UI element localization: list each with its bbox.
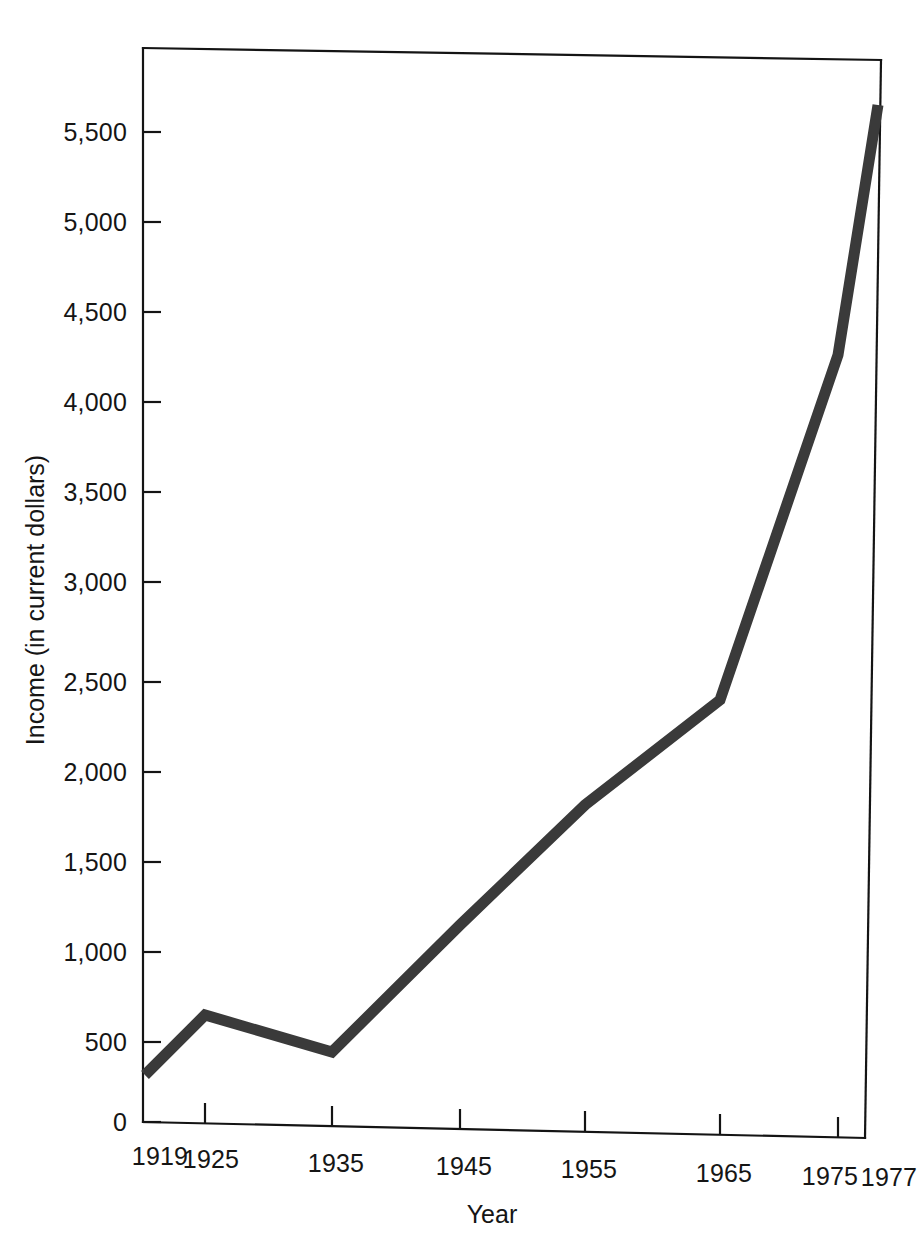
y-tick-label-4500: 4,500 xyxy=(63,298,127,326)
x-tick-label-1935: 1935 xyxy=(308,1149,364,1177)
x-tick-label-1977: 1977 xyxy=(861,1163,917,1191)
frame-top-border xyxy=(143,48,881,60)
x-tick-label-1955: 1955 xyxy=(561,1155,617,1183)
x-tick-label-1945: 1945 xyxy=(436,1152,492,1180)
y-tick-label-3500: 3,500 xyxy=(63,478,127,506)
x-axis-ticks xyxy=(205,1103,838,1137)
line-chart-svg: 0 500 1,000 1,500 2,000 2,500 3,000 3,50… xyxy=(0,0,920,1233)
chart-figure: 0 500 1,000 1,500 2,000 2,500 3,000 3,50… xyxy=(0,0,920,1233)
income-series-line xyxy=(145,105,878,1075)
y-tick-label-1000: 1,000 xyxy=(63,938,127,966)
y-tick-label-2500: 2,500 xyxy=(63,668,127,696)
x-tick-label-1919: 1919 xyxy=(132,1142,188,1170)
y-axis-title: Income (in current dollars) xyxy=(21,455,49,745)
x-axis-title: Year xyxy=(467,1200,518,1228)
x-tick-label-1975: 1975 xyxy=(802,1162,858,1190)
frame-right-border xyxy=(865,60,881,1138)
x-tick-label-1965: 1965 xyxy=(696,1159,752,1187)
y-tick-label-2000: 2,000 xyxy=(63,758,127,786)
y-axis-ticks xyxy=(143,132,161,1122)
y-tick-label-3000: 3,000 xyxy=(63,568,127,596)
x-axis-tick-labels: 1919 1925 1935 1945 1955 1965 1975 1977 xyxy=(132,1142,917,1191)
y-tick-label-0: 0 xyxy=(113,1108,127,1136)
plot-frame xyxy=(143,48,881,1138)
y-tick-label-5000: 5,000 xyxy=(63,208,127,236)
x-tick-label-1925: 1925 xyxy=(183,1145,239,1173)
y-tick-label-1500: 1,500 xyxy=(63,848,127,876)
y-tick-label-5500: 5,500 xyxy=(63,118,127,146)
y-axis-tick-labels: 0 500 1,000 1,500 2,000 2,500 3,000 3,50… xyxy=(63,118,127,1136)
x-axis-line xyxy=(143,1122,865,1138)
y-tick-label-4000: 4,000 xyxy=(63,388,127,416)
y-tick-label-500: 500 xyxy=(85,1028,127,1056)
